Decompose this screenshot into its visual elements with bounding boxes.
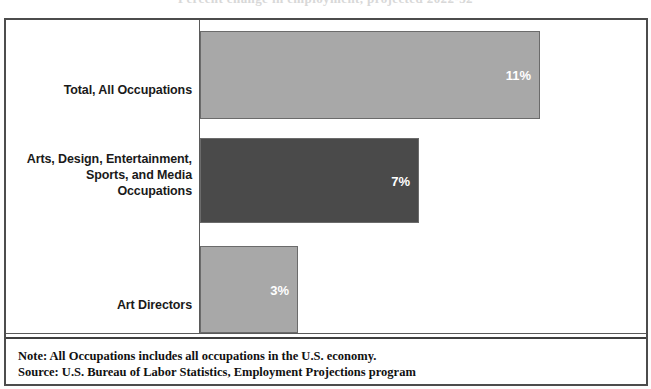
- note-text: Note: All Occupations includes all occup…: [18, 348, 634, 364]
- footnote-block: Note: All Occupations includes all occup…: [18, 348, 634, 380]
- bar-value-label-arts-design-entertainment: 7%: [391, 173, 410, 188]
- category-label-art-directors: Art Directors: [14, 297, 192, 313]
- chart-title: Percent change in employment, projected …: [0, 0, 651, 7]
- axis-baseline: [6, 333, 646, 334]
- bar-total-all-occupations: 11%: [200, 31, 540, 119]
- bar-arts-design-entertainment: 7%: [200, 138, 419, 223]
- source-text: Source: U.S. Bureau of Labor Statistics,…: [18, 364, 634, 380]
- figure-frame: Total, All Occupations 11% Arts, Design,…: [4, 18, 648, 386]
- footer-divider: [6, 337, 646, 339]
- bar-value-label-art-directors: 3%: [270, 282, 289, 297]
- cropped-title-strip: Percent change in employment, projected …: [0, 0, 651, 18]
- category-label-total-all-occupations: Total, All Occupations: [14, 82, 192, 98]
- category-label-arts-design-entertainment: Arts, Design, Entertainment, Sports, and…: [14, 151, 192, 199]
- bar-art-directors: 3%: [200, 246, 298, 333]
- chart-screenshot: Percent change in employment, projected …: [0, 0, 651, 389]
- plot-area: Total, All Occupations 11% Arts, Design,…: [6, 20, 646, 384]
- bar-value-label-total-all-occupations: 11%: [506, 68, 531, 83]
